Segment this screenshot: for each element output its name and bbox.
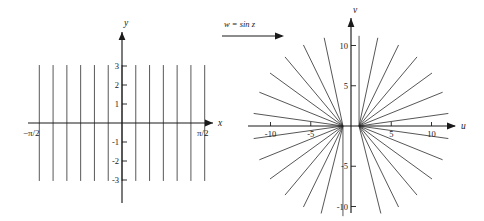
w-plane-v-tick-label: -10 bbox=[337, 202, 348, 212]
left-panel-z-plane: 321-1-2-3 x y −π/2 π/2 bbox=[23, 18, 223, 203]
w-plane-v-tick-label: 5 bbox=[344, 81, 348, 91]
w-plane-ray bbox=[259, 92, 343, 126]
z-plane-x-axis-label: x bbox=[217, 118, 223, 128]
z-plane-y-tick-label: 3 bbox=[115, 61, 119, 71]
z-plane-y-tick-label: -3 bbox=[112, 175, 119, 185]
figure-canvas: 321-1-2-3 x y −π/2 π/2 w = sin z -1 bbox=[0, 0, 484, 221]
w-plane-v-axis-label: v bbox=[353, 5, 358, 15]
w-plane-ray bbox=[324, 38, 343, 126]
z-plane-y-axis-arrowhead bbox=[119, 32, 126, 40]
z-plane-y-tick-label: -2 bbox=[112, 156, 119, 166]
w-plane-ray bbox=[254, 113, 343, 126]
z-plane-x-right-label: π/2 bbox=[197, 128, 209, 138]
w-plane-ray bbox=[359, 92, 443, 126]
w-plane-u-tick-label: -10 bbox=[265, 129, 276, 139]
w-plane-u-tick-label: -5 bbox=[307, 129, 314, 139]
mapping-annotation: w = sin z bbox=[222, 19, 284, 40]
z-plane-y-tick-label: 2 bbox=[115, 80, 119, 90]
w-plane-u-tick-label: 10 bbox=[427, 129, 436, 139]
z-plane-y-tick-label: 1 bbox=[115, 99, 119, 109]
mapping-formula-label: w = sin z bbox=[224, 19, 256, 29]
w-plane-u-tick-label: 5 bbox=[389, 129, 393, 139]
z-plane-y-tick-label: -1 bbox=[112, 137, 119, 147]
w-plane-u-axis-arrowhead bbox=[447, 122, 456, 129]
figure-sin-z-mapping: 321-1-2-3 x y −π/2 π/2 w = sin z -1 bbox=[0, 0, 484, 221]
w-plane-ray bbox=[359, 38, 378, 126]
w-plane-u-axis-label: u bbox=[461, 121, 466, 131]
w-plane-ray bbox=[359, 73, 432, 126]
z-plane-x-axis-arrowhead bbox=[205, 120, 213, 127]
z-plane-x-left-label: −π/2 bbox=[23, 128, 40, 138]
mapping-arrow-head bbox=[275, 32, 284, 39]
w-plane-v-tick-label: 10 bbox=[340, 41, 349, 51]
w-plane-ray bbox=[270, 73, 343, 126]
w-plane-u-ticks: -10-5510 bbox=[265, 122, 436, 139]
z-plane-y-axis-label: y bbox=[123, 18, 129, 28]
w-plane-v-tick-label: -5 bbox=[341, 161, 348, 171]
w-plane-ray bbox=[359, 113, 448, 126]
w-plane-v-axis-arrowhead bbox=[348, 18, 355, 27]
